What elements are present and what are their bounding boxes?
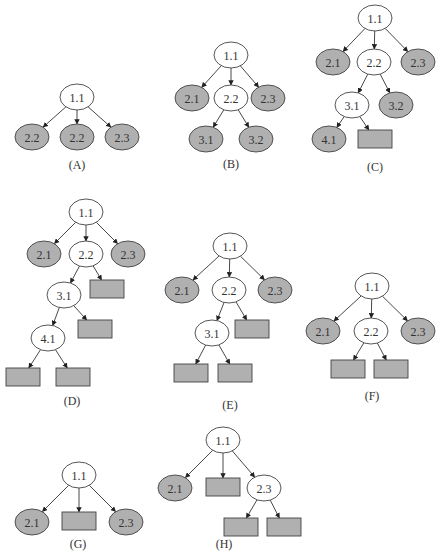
tree-node-2-2: 2.2 [214,85,248,111]
edge-arrow [358,74,368,93]
node-label: 2.2 [364,325,379,339]
figure-svg: 1.12.22.22.31.12.12.22.33.13.21.12.12.22… [0,0,440,558]
node-label: 2.3 [261,92,276,106]
tree-node-2-3: 2.3 [105,124,139,150]
node-label: 3.1 [57,289,72,303]
edge-arrow [238,110,249,127]
node-label: 2.1 [175,284,190,298]
tree-node-2-1: 2.1 [175,85,209,111]
panel-caption: (C) [367,160,383,174]
edge-arrow [380,74,390,93]
rect-shape [62,512,96,530]
edge-arrow [337,117,344,128]
tree-node-2-1: 2.1 [165,277,199,303]
tree-node-2-2: 2.2 [212,277,246,303]
panel-caption: (F) [365,389,380,403]
edge-arrow [377,343,386,360]
node-label: 2.1 [25,516,40,530]
node-label: 2.1 [316,325,331,339]
node-label: 3.2 [249,133,264,147]
tree-diagrams-figure: 1.12.22.22.31.12.12.22.33.13.21.12.12.22… [0,0,440,558]
tree-node-1-1: 1.1 [69,199,103,225]
edge-arrow [385,28,408,51]
node-label: 2.1 [326,56,341,70]
node-label: 2.2 [70,131,85,145]
tree-node-3-1: 3.1 [335,92,369,118]
node-label: 2.3 [119,516,134,530]
node-label: 2.2 [224,92,239,106]
tree-node-2-3: 2.3 [401,49,435,75]
edge-arrow [219,345,230,364]
node-label: 2.2 [367,56,382,70]
tree-node-1-1: 1.1 [358,5,392,31]
tree-node-1-1: 1.1 [62,462,96,488]
leaf-box-node [62,512,96,530]
node-label: 2.1 [185,92,200,106]
node-label: 1.1 [79,206,94,220]
edge-arrow [213,110,224,127]
edge-arrow [360,117,369,130]
tree-node-2-3: 2.3 [247,475,281,501]
rect-shape [267,518,301,536]
tree-node-2-3: 2.3 [111,241,145,267]
tree-node-3-1: 3.1 [195,320,229,346]
node-label: 3.1 [345,99,360,113]
panel-caption: (G) [70,537,87,551]
leaf-box-node [90,280,124,298]
tree-node-1-1: 1.1 [213,233,247,259]
node-label: 1.1 [224,49,239,63]
leaf-box-node [374,360,408,378]
rect-shape [374,360,408,378]
edge-arrow [196,345,206,364]
leaf-box-node [56,368,90,386]
edge-arrow [70,266,79,283]
tree-node-3-2: 3.2 [239,126,273,152]
tree-node-2-1: 2.1 [316,49,350,75]
node-label: 4.1 [322,133,337,147]
edge-arrow [43,107,66,127]
rect-shape [235,320,269,338]
node-label: 1.1 [216,434,231,448]
tree-node-2-1: 2.1 [27,241,61,267]
edge-arrow [353,343,363,360]
edge-arrow [236,302,247,320]
tree-node-3-1: 3.1 [189,126,223,152]
rect-shape [331,360,365,378]
rect-shape [78,320,112,338]
edge-arrow [334,296,361,321]
tree-node-2-1: 2.1 [15,509,49,535]
node-label: 3.1 [199,133,214,147]
tree-node-1-1: 1.1 [355,273,389,299]
node-label: 2.1 [37,248,52,262]
node-label: 2.3 [268,284,283,298]
rect-shape [206,478,240,496]
edge-arrow [202,66,222,88]
edge-arrow [55,350,67,368]
edge-arrow [240,66,258,87]
edge-arrow [232,451,254,477]
tree-node-1-1: 1.1 [206,427,240,453]
node-label: 3.1 [205,327,220,341]
rect-shape [358,130,392,148]
leaf-box-node [218,364,252,382]
rect-shape [224,518,258,536]
leaf-box-node [206,478,240,496]
rect-shape [174,364,208,382]
leaf-box-node [331,360,365,378]
tree-node-2-2: 2.2 [354,318,388,344]
tree-node-2-3: 2.3 [401,318,435,344]
edge-arrow [270,500,279,518]
leaf-box-node [235,320,269,338]
edge-arrow [246,500,257,518]
tree-node-4-1: 4.1 [312,126,346,152]
edge-arrow [96,222,117,243]
edge-arrow [88,107,111,127]
node-label: 1.1 [223,240,238,254]
tree-node-2-2: 2.2 [15,124,49,150]
node-label: 2.3 [115,131,130,145]
edge-arrow [193,256,219,280]
tree-node-4-1: 4.1 [31,325,65,351]
edge-arrow [343,29,365,52]
edge-arrow [42,485,68,511]
tree-node-2-2: 2.2 [69,241,103,267]
